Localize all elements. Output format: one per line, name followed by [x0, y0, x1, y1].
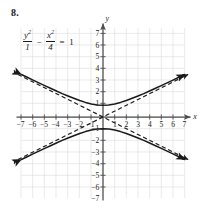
exponent-2: 2 — [51, 29, 54, 35]
svg-text:2: 2 — [125, 120, 129, 129]
y-axis-label: y — [105, 14, 110, 23]
svg-text:1: 1 — [113, 120, 117, 129]
exponent-1: 2 — [28, 29, 31, 35]
equation-denominator-1: 1 — [23, 41, 32, 52]
equation-minus-operator: − — [36, 37, 43, 47]
equation-label: y2 1 − x2 4 = 1 — [22, 31, 75, 52]
svg-text:5: 5 — [96, 52, 100, 61]
svg-text:4: 4 — [96, 64, 100, 73]
svg-text:3: 3 — [96, 76, 100, 85]
svg-text:7: 7 — [96, 29, 100, 38]
equation-numerator-2: x2 — [45, 31, 56, 41]
svg-text:−4: −4 — [91, 159, 99, 168]
svg-text:6: 6 — [96, 41, 100, 50]
svg-text:7: 7 — [183, 120, 187, 129]
svg-text:−3: −3 — [63, 120, 71, 129]
svg-text:3: 3 — [136, 120, 140, 129]
svg-text:−5: −5 — [40, 120, 48, 129]
svg-text:−5: −5 — [91, 171, 99, 180]
svg-text:−2: −2 — [75, 120, 83, 129]
svg-text:−6: −6 — [28, 120, 36, 129]
svg-text:6: 6 — [171, 120, 175, 129]
x-axis-tick-labels: −7 −6 −5 −4 −3 −2 −1 1 2 3 4 5 6 7 — [17, 120, 187, 129]
fraction-y-squared-over-1: y2 1 — [22, 31, 33, 52]
svg-text:4: 4 — [148, 120, 152, 129]
equation-equals-operator: = — [59, 37, 66, 47]
equation-numerator-1: y2 — [22, 31, 33, 41]
svg-text:−1: −1 — [91, 124, 99, 133]
svg-text:−6: −6 — [91, 183, 99, 192]
y-axis-tick-labels: 7 6 5 4 3 2 1 −1 −2 −3 −4 −5 −6 −7 — [91, 29, 99, 203]
equation-right-hand-side: 1 — [68, 37, 75, 47]
fraction-x-squared-over-4: x2 4 — [45, 31, 56, 52]
svg-text:5: 5 — [160, 120, 164, 129]
svg-text:−3: −3 — [91, 148, 99, 157]
svg-text:2: 2 — [96, 87, 100, 96]
svg-text:1: 1 — [96, 99, 100, 108]
svg-text:−7: −7 — [17, 120, 25, 129]
figure-container: 8. — [0, 0, 206, 214]
x-axis-label: x — [192, 112, 197, 121]
equation-denominator-2: 4 — [46, 41, 55, 52]
svg-text:−7: −7 — [91, 194, 99, 203]
svg-text:−4: −4 — [52, 120, 60, 129]
svg-text:−2: −2 — [91, 136, 99, 145]
